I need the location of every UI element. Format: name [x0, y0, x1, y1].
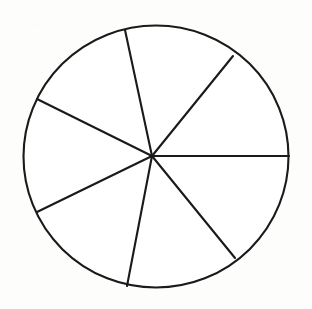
- sector-circle-diagram: [0, 0, 312, 309]
- figure-root: [0, 0, 312, 309]
